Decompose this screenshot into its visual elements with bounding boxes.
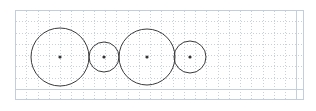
center-dot-1 — [58, 55, 61, 58]
center-dot-3 — [145, 55, 148, 58]
center-dot-4 — [188, 55, 191, 58]
canvas-background — [0, 0, 316, 111]
tangent-circles-diagram — [0, 0, 316, 111]
figure-container — [0, 0, 316, 111]
center-dot-2 — [102, 55, 105, 58]
